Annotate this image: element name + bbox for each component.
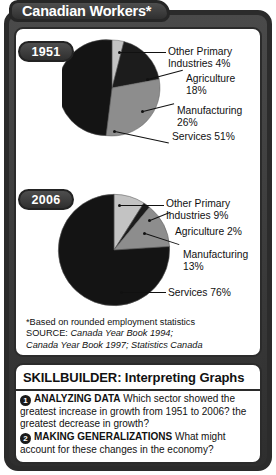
page-title: Canadian Workers* xyxy=(22,4,151,19)
label-manufacturing-1951: Manufacturing 26% xyxy=(177,105,242,128)
source-title-2: Canada Year Book 1997; Statistics Canada xyxy=(26,340,254,351)
pie-slices-1951 xyxy=(62,40,160,136)
source-label: SOURCE: xyxy=(26,328,68,338)
canadian-workers-figure: Canadian Workers* 1951 Other P xyxy=(0,0,276,475)
source-note: *Based on rounded employment statistics … xyxy=(26,317,254,351)
year-badge-2006: 2006 xyxy=(18,189,74,210)
figure-title-tab: Canadian Workers* xyxy=(9,0,170,22)
skillbuilder-divider xyxy=(16,389,260,391)
callout-dot-manufacturing-1951 xyxy=(141,110,144,113)
leader-line-other-primary-1951 xyxy=(120,52,166,53)
pie-slices-2006 xyxy=(58,194,169,305)
source-title-1: Canada Year Book 1994; xyxy=(70,328,173,338)
label-agriculture-1951: Agriculture 18% xyxy=(186,73,235,96)
leader-line-services-2006 xyxy=(122,292,166,293)
callout-dot-services-2006 xyxy=(120,291,123,294)
skillbuilder-caption-1: ANALYZING DATA xyxy=(34,393,120,404)
leader-line-other-primary-2006 xyxy=(120,205,164,206)
year-badge-1951: 1951 xyxy=(18,41,74,62)
label-services-1951: Services 51% xyxy=(172,131,235,143)
callout-dot-agriculture-2006 xyxy=(148,219,151,222)
callout-dot-services-1951 xyxy=(113,130,116,133)
list-number-icon: 2 xyxy=(20,433,31,444)
pie-chart-2006 xyxy=(56,192,172,308)
callout-dot-manufacturing-2006 xyxy=(143,232,146,235)
skillbuilder-caption-2: MAKING GENERALIZATIONS xyxy=(34,431,172,442)
callout-dot-agriculture-1951 xyxy=(146,78,149,81)
source-note-line-2: SOURCE: Canada Year Book 1994; xyxy=(26,328,254,339)
skillbuilder-heading: SKILLBUILDER: Interpreting Graphs xyxy=(23,370,244,385)
pie-chart-1951 xyxy=(62,38,162,138)
label-agriculture-2006: Agriculture 2% xyxy=(175,226,242,238)
callout-dot-other-primary-1951 xyxy=(118,51,121,54)
callout-dot-other-primary-2006 xyxy=(118,204,121,207)
label-services-2006: Services 76% xyxy=(168,287,231,299)
label-other-primary-industries-1951: Other Primary Industries 4% xyxy=(168,46,232,69)
source-note-line-1: *Based on rounded employment statistics xyxy=(26,317,254,328)
skillbuilder-question-2: 2MAKING GENERALIZATIONS What might accou… xyxy=(20,431,256,456)
label-other-primary-industries-2006: Other Primary Industries 9% xyxy=(166,198,230,221)
skillbuilder-question-1: 1ANALYZING DATA Which sector showed the … xyxy=(20,393,256,430)
list-number-icon: 1 xyxy=(20,395,31,406)
label-manufacturing-2006: Manufacturing 13% xyxy=(183,249,248,272)
